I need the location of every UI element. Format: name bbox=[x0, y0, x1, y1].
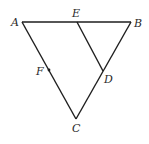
segment-ed bbox=[77, 22, 103, 71]
triangle-figure: A E B F D C bbox=[0, 0, 149, 144]
label-f: F bbox=[35, 65, 44, 78]
label-c: C bbox=[72, 122, 81, 135]
label-e: E bbox=[71, 7, 80, 20]
triangle-diagram: A E B F D C bbox=[0, 0, 149, 144]
point-f-dot bbox=[48, 69, 51, 72]
label-b: B bbox=[133, 17, 142, 30]
label-d: D bbox=[103, 73, 113, 86]
label-a: A bbox=[10, 16, 19, 29]
